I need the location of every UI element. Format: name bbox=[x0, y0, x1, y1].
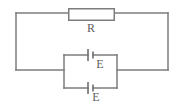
cell-top-label: E bbox=[96, 57, 103, 71]
cell-bottom-label: E bbox=[92, 90, 99, 104]
resistor-label: R bbox=[87, 21, 95, 35]
circuit-diagram: R E E bbox=[0, 0, 181, 110]
circuit-svg: R E E bbox=[0, 0, 181, 110]
resistor-body bbox=[69, 9, 115, 21]
